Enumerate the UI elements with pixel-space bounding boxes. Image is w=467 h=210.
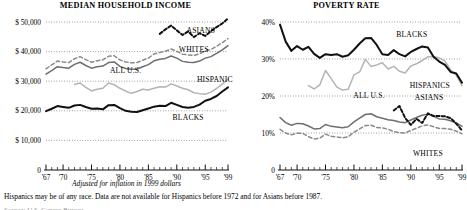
y-tick-label: 40% [261, 18, 275, 27]
y-tick-label: $ 20,000 [15, 106, 41, 115]
y-tick-label: $ 10,000 [15, 136, 41, 145]
series-label-blacks: BLACKS [173, 113, 204, 122]
source-line-partial: Source: U.S. Census Bureau [4, 206, 184, 210]
x-tick-label: '75 [321, 174, 330, 182]
x-tick-label: '80 [350, 174, 359, 182]
panel-median-household-income: MEDIAN HOUSEHOLD INCOME $ 50,000$ 40,000… [0, 0, 233, 186]
series-label-blacks: BLACKS [396, 30, 427, 39]
y-tick-label: $ 30,000 [15, 77, 41, 86]
footnote-text: Hispanics may be of any race. Data are n… [4, 192, 464, 201]
x-tick-label: '70 [293, 174, 302, 182]
y-tick-label: 0 [37, 166, 41, 175]
series-label-all-u-s: ALL U.S. [353, 91, 384, 100]
series-label-whites: WHITES [413, 149, 443, 158]
series-label-asians: ASIANS [187, 26, 216, 35]
series-line-whites [280, 125, 462, 139]
income-plot-area: $ 50,000$ 40,000$ 30,000$ 20,000$ 10,000… [0, 0, 233, 186]
x-tick-label: '67 [276, 174, 285, 182]
figure-two-panel-chart: MEDIAN HOUSEHOLD INCOME $ 50,000$ 40,000… [0, 0, 467, 210]
x-tick-label: '99 [458, 174, 467, 182]
x-tick-label: '95 [435, 174, 444, 182]
series-line-asians [394, 106, 462, 130]
axis-caption-inflation: Adjusted for inflation in 1999 dollars [0, 179, 233, 188]
series-label-whites: WHITES [179, 45, 209, 54]
y-tick-label: 20% [261, 92, 275, 101]
panel-poverty-rate: POVERTY RATE 40%30%20%10%0'67'70'75'80'8… [234, 0, 467, 186]
y-tick-label: $ 50,000 [15, 18, 41, 27]
y-tick-label: 0 [271, 166, 275, 175]
x-tick-label: '90 [407, 174, 416, 182]
x-tick-label: '85 [378, 174, 387, 182]
series-label-all-u-s: ALL U.S. [110, 66, 141, 75]
series-label-hispanics: HISPANICS [197, 75, 233, 84]
series-label-asians: ASIANS [415, 93, 444, 102]
y-tick-label: 10% [261, 129, 275, 138]
series-label-hispanics: HISPANICS [410, 81, 450, 90]
poverty-plot-area: 40%30%20%10%0'67'70'75'80'85'90'95'99BLA… [234, 0, 467, 186]
series-line-blacks [280, 25, 462, 83]
y-tick-label: 30% [261, 55, 275, 64]
y-tick-label: $ 40,000 [15, 47, 41, 56]
